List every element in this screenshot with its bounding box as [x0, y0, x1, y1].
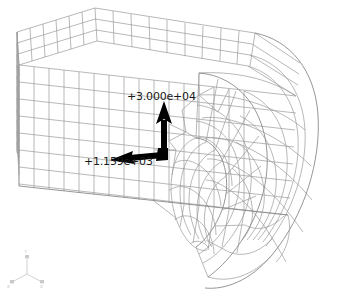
orientation-triad: Y X Z — [7, 249, 44, 289]
mesh-rounded-cap — [199, 33, 318, 288]
triad-label-y: Y — [24, 249, 28, 254]
horizontal-force-label: +1.159e+03 — [84, 155, 153, 168]
mesh-scene: +3.000e+04 +1.159e+03 Y X Z — [0, 0, 345, 296]
fea-visualization-viewport: +3.000e+04 +1.159e+03 Y X Z — [0, 0, 345, 296]
triad-label-z: Z — [7, 284, 10, 289]
mesh-top-face — [17, 8, 300, 96]
mesh-front-face — [19, 65, 296, 215]
mesh-inner-bore — [170, 138, 232, 255]
vertical-force-label: +3.000e+04 — [127, 90, 196, 103]
triad-label-x: X — [40, 284, 43, 289]
vertical-force-vector — [156, 101, 172, 155]
